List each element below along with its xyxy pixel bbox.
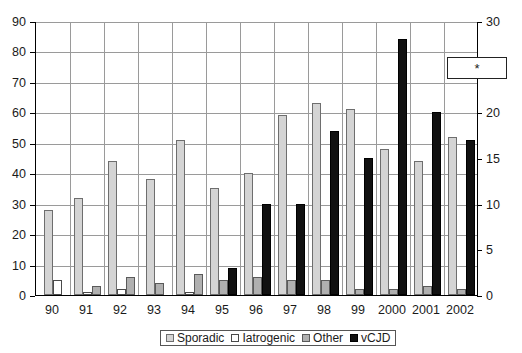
x-axis-label-93: 93 <box>137 303 171 317</box>
bar-other-96 <box>253 277 262 295</box>
legend-swatch-vcjd <box>350 334 358 342</box>
y-axis-right-label-10: 10 <box>486 199 500 212</box>
bar-other-99 <box>355 289 364 295</box>
bar-group-95 <box>206 22 240 295</box>
bar-vcjd-95 <box>228 268 237 295</box>
legend-item-sporadic: Sporadic <box>166 332 224 344</box>
y-axis-right-label-20: 20 <box>486 107 500 120</box>
x-axis-label-90: 90 <box>35 303 69 317</box>
legend-item-iatrogenic: Iatrogenic <box>231 332 295 344</box>
bar-iatrogenic-91 <box>83 292 92 295</box>
x-axis-label-96: 96 <box>239 303 273 317</box>
bar-sporadic-98 <box>312 103 321 295</box>
asterisk-annotation: * <box>447 57 507 79</box>
x-axis-label-2001: 2001 <box>409 303 443 317</box>
bar-other-92 <box>126 277 135 295</box>
bar-group-97 <box>274 22 308 295</box>
bar-group-2000 <box>376 22 410 295</box>
bar-sporadic-2001 <box>414 161 423 295</box>
x-axis-label-98: 98 <box>307 303 341 317</box>
bar-group-91 <box>70 22 104 295</box>
bar-sporadic-95 <box>210 188 219 295</box>
plot-area <box>35 22 477 296</box>
bar-iatrogenic-92 <box>117 289 126 295</box>
y-axis-right-label-5: 5 <box>486 244 493 257</box>
legend-swatch-iatrogenic <box>231 334 239 342</box>
x-axis-label-2000: 2000 <box>375 303 409 317</box>
y-axis-right-label-30: 30 <box>486 16 500 29</box>
bar-vcjd-96 <box>262 204 271 295</box>
x-axis-label-2002: 2002 <box>443 303 477 317</box>
bar-group-99 <box>342 22 376 295</box>
legend-swatch-sporadic <box>166 334 174 342</box>
bar-sporadic-2000 <box>380 149 389 295</box>
bar-other-95 <box>219 280 228 295</box>
bar-sporadic-2002 <box>448 137 457 295</box>
x-axis-label-95: 95 <box>205 303 239 317</box>
legend-label-sporadic: Sporadic <box>177 332 224 344</box>
x-axis-label-94: 94 <box>171 303 205 317</box>
legend-label-other: Other <box>313 332 343 344</box>
bar-group-98 <box>308 22 342 295</box>
x-axis-label-97: 97 <box>273 303 307 317</box>
bar-vcjd-97 <box>296 204 305 295</box>
legend-swatch-other <box>302 334 310 342</box>
y-tick-right-0 <box>477 296 482 297</box>
bar-vcjd-99 <box>364 158 373 295</box>
x-axis-label-92: 92 <box>103 303 137 317</box>
bar-sporadic-97 <box>278 115 287 295</box>
bar-group-93 <box>138 22 172 295</box>
bar-other-2001 <box>423 286 432 295</box>
bar-vcjd-2001 <box>432 112 441 295</box>
bar-group-96 <box>240 22 274 295</box>
bar-other-97 <box>287 280 296 295</box>
bar-group-90 <box>36 22 70 295</box>
bar-group-2001 <box>410 22 444 295</box>
bar-iatrogenic-90 <box>53 280 62 295</box>
legend-label-vcjd: vCJD <box>361 332 390 344</box>
bar-vcjd-98 <box>330 131 339 295</box>
bar-other-93 <box>155 283 164 295</box>
bar-sporadic-91 <box>74 198 83 295</box>
bar-group-94 <box>172 22 206 295</box>
x-axis-label-91: 91 <box>69 303 103 317</box>
asterisk-icon: * <box>474 61 479 76</box>
legend-item-vcjd: vCJD <box>350 332 390 344</box>
bar-sporadic-99 <box>346 109 355 295</box>
bar-vcjd-2002 <box>466 140 475 295</box>
bar-sporadic-94 <box>176 140 185 295</box>
chart-legend: Sporadic Iatrogenic Other vCJD <box>160 330 396 346</box>
y-axis-right-label-15: 15 <box>486 153 500 166</box>
legend-label-iatrogenic: Iatrogenic <box>242 332 295 344</box>
y-axis-right-label-0: 0 <box>486 290 493 303</box>
legend-item-other: Other <box>302 332 343 344</box>
bar-sporadic-96 <box>244 173 253 295</box>
bar-iatrogenic-94 <box>185 292 194 295</box>
bar-sporadic-93 <box>146 179 155 295</box>
bar-other-2002 <box>457 289 466 295</box>
bar-sporadic-92 <box>108 161 117 295</box>
bar-other-94 <box>194 274 203 295</box>
bar-other-91 <box>92 286 101 295</box>
bar-group-92 <box>104 22 138 295</box>
bar-other-98 <box>321 280 330 295</box>
bar-other-2000 <box>389 289 398 295</box>
bar-sporadic-90 <box>44 210 53 295</box>
x-axis-label-99: 99 <box>341 303 375 317</box>
bar-chart: 0102030405060708090 051015202530 9091929… <box>0 0 522 353</box>
bar-vcjd-2000 <box>398 39 407 295</box>
